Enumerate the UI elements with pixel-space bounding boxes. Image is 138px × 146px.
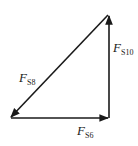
vector-fs8-arrow (11, 15, 108, 117)
label-fs6: FS6 (76, 123, 93, 140)
label-fs10: FS10 (112, 40, 133, 57)
label-fs8: FS8 (18, 70, 35, 87)
force-triangle-diagram: FS8 FS10 FS6 (0, 0, 138, 146)
